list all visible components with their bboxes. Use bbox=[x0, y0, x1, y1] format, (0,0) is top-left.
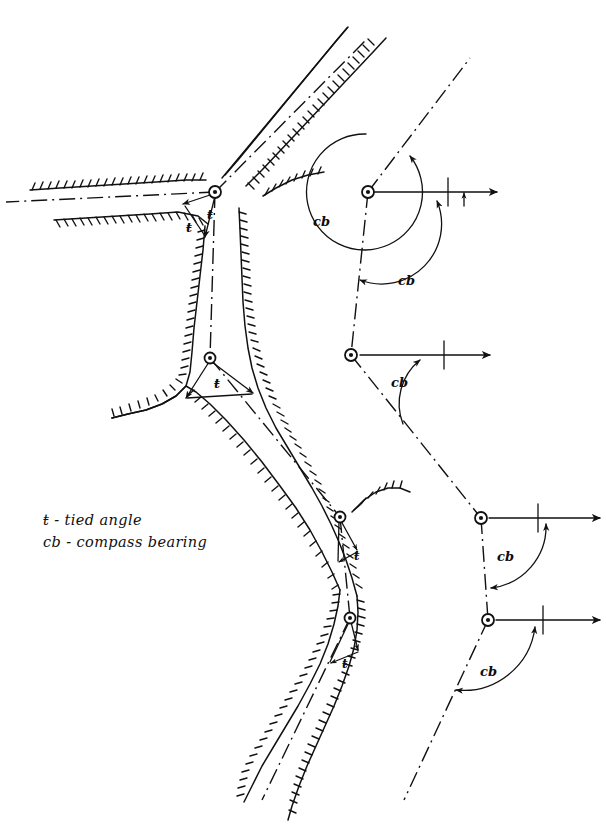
tied-angle-group bbox=[183, 194, 358, 663]
legend-line-compass-bearing: cb - compass bearing bbox=[43, 534, 207, 550]
survey-centreline-group bbox=[6, 38, 488, 800]
river-station-4[interactable] bbox=[345, 613, 356, 624]
centreline-main-mid bbox=[210, 358, 340, 517]
traverse-station-4[interactable] bbox=[482, 614, 494, 626]
tied-angle-label-5: ŧ bbox=[342, 657, 348, 671]
traverse-station-3[interactable] bbox=[475, 512, 487, 524]
riverbank-ne-lower bbox=[246, 38, 386, 189]
legend-line-tied-angle: ŧ - tied angle bbox=[43, 512, 142, 528]
riverbank-ne-upper bbox=[222, 27, 348, 178]
traverse-line-4-down bbox=[404, 620, 488, 800]
riverbank-lower-west bbox=[237, 590, 340, 802]
riverbank-main-west-lower bbox=[112, 386, 340, 590]
traverse-line-2-3 bbox=[351, 355, 481, 518]
centreline-w-tributary bbox=[6, 192, 215, 202]
river-station-1[interactable] bbox=[209, 186, 221, 198]
river-station-2[interactable] bbox=[205, 353, 216, 364]
compass-bearing-label-4: cb bbox=[497, 549, 514, 564]
compass-bearing-label-5: cb bbox=[480, 664, 497, 679]
traverse-station-1[interactable] bbox=[362, 186, 374, 198]
tied-angle-label-1: ŧ bbox=[207, 207, 213, 222]
cb-arc-2 bbox=[360, 201, 442, 284]
river-station-3[interactable] bbox=[335, 512, 346, 523]
compass-bearing-label-1: cb bbox=[313, 214, 330, 229]
legend: ŧ - tied angle cb - compass bearing bbox=[43, 512, 207, 550]
compass-bearing-station-3 bbox=[489, 504, 600, 588]
traverse-line-1-2 bbox=[351, 192, 368, 355]
centreline-main-downstream bbox=[262, 618, 350, 800]
compass-bearing-label-3: cb bbox=[391, 375, 408, 390]
tied-angle-label-4: ŧ bbox=[354, 549, 360, 563]
riverbank-east-branch bbox=[352, 481, 410, 512]
traverse-station-2[interactable] bbox=[345, 349, 357, 361]
survey-diagram: ŧ ŧ ŧ ŧ ŧ cb cb cb cb cb ŧ - tied angle … bbox=[0, 0, 606, 838]
riverbank-east-stub bbox=[263, 167, 324, 196]
traverse-line-3-4 bbox=[481, 518, 488, 620]
compass-bearing-label-2: cb bbox=[398, 273, 415, 288]
annotation-text-group: ŧ ŧ ŧ ŧ ŧ cb cb cb cb cb bbox=[186, 207, 514, 679]
riverbank-group bbox=[30, 27, 410, 820]
riverbank-w-lower bbox=[54, 212, 208, 227]
tied-angle-label-2: ŧ bbox=[186, 220, 192, 235]
riverbank-main-east-upper bbox=[239, 208, 362, 596]
riverbank-w-upper bbox=[30, 173, 206, 190]
compass-bearing-station-1 bbox=[307, 134, 497, 284]
tied-angle-label-3: ŧ bbox=[214, 376, 220, 391]
station-marker-group bbox=[205, 186, 495, 626]
compass-bearing-station-4 bbox=[456, 606, 600, 690]
cb-arc-5 bbox=[456, 627, 535, 690]
cb-arc-3 bbox=[399, 360, 420, 424]
centreline-ne-tributary bbox=[215, 38, 368, 192]
compass-bearing-station-2 bbox=[360, 341, 490, 424]
diagram-root: ŧ ŧ ŧ ŧ ŧ cb cb cb cb cb ŧ - tied angle … bbox=[0, 0, 606, 838]
